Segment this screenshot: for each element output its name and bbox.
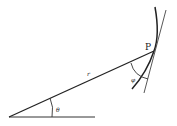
phi-label: φ	[131, 76, 136, 84]
theta-label: θ	[56, 106, 60, 113]
polar-tangent-diagram: P r θ φ	[0, 0, 177, 126]
radius-line	[9, 51, 154, 117]
theta-arc	[50, 98, 53, 117]
radius-label: r	[87, 70, 91, 77]
point-label: P	[145, 42, 151, 52]
